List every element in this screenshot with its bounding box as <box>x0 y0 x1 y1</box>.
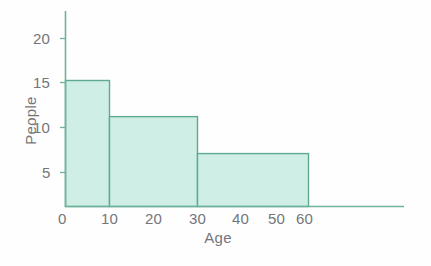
bar-30-60 <box>198 154 309 207</box>
x-tick-label-30: 30 <box>189 210 206 227</box>
histogram-chart: 20 15 10 5 0 10 20 30 40 50 60 People Ag… <box>0 0 431 266</box>
x-tick-label-0: 0 <box>58 210 67 227</box>
x-tick-label-40: 40 <box>232 210 249 227</box>
y-tick-label-20: 20 <box>33 30 50 47</box>
x-axis-title: Age <box>188 229 248 246</box>
y-tick-label-15: 15 <box>33 74 50 91</box>
y-tick-label-5: 5 <box>42 164 51 181</box>
x-tick-label-50: 50 <box>268 210 285 227</box>
x-tick-label-60: 60 <box>296 210 313 227</box>
x-tick-label-10: 10 <box>101 210 118 227</box>
bars-group <box>66 81 309 207</box>
bar-10-30 <box>110 117 198 207</box>
bar-0-10 <box>66 81 110 207</box>
y-tick-marks <box>60 39 66 173</box>
y-axis-title: People <box>22 91 39 151</box>
x-tick-label-20: 20 <box>145 210 162 227</box>
